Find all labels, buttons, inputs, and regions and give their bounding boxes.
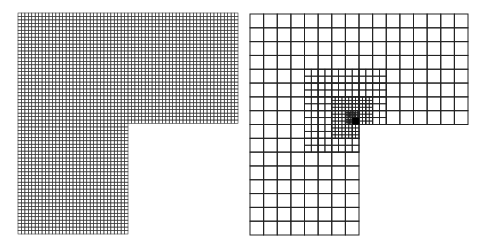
adaptive-mesh-panel bbox=[250, 14, 468, 235]
mesh-figure bbox=[0, 0, 487, 248]
figure bbox=[0, 0, 487, 248]
uniform-mesh-panel bbox=[18, 13, 238, 234]
